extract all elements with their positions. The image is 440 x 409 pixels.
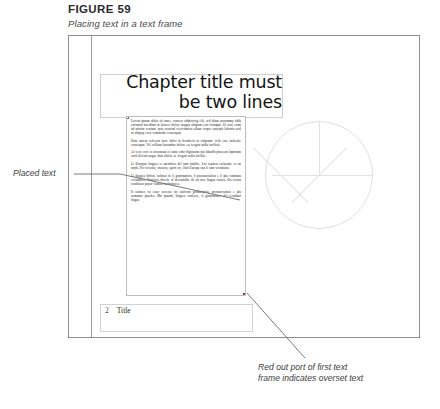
text-frame-out-port-icon[interactable] [243,293,246,296]
callout-placed-text: Placed text [13,168,56,179]
body-paragraph: Li lingues differe solmen in li grammati… [131,175,241,187]
decorative-circle-graphic [265,121,373,229]
figure-caption: Placing text in a text frame [68,18,183,29]
body-paragraph: At vero eros et accumsan et iusto odio d… [131,151,241,159]
figure-label: FIGURE 59 [68,3,131,15]
body-paragraph: Li Europan lingues es membres del sam fa… [131,163,241,171]
body-text-frame[interactable]: Lorem ipsum dolor sit amet, consect adip… [126,116,246,296]
text-frame-in-port-icon[interactable] [126,116,129,119]
circle-spoke-horizontal [272,175,372,176]
chapter-title-line-2: be two lines [102,92,282,112]
body-paragraph: Duis autem velerem irure dolor in hendre… [131,140,241,148]
chapter-title-text: Chapter title must be two lines [102,72,282,112]
figure-root: FIGURE 59 Placing text in a text frame C… [0,0,440,409]
body-paragraph: It solmen va esser necessi far uniform g… [131,191,241,203]
chapter-title-line-1: Chapter title must [126,72,282,92]
page-inner: Chapter title must be two lines Lorem ip… [69,36,419,337]
footer-page-number: 2 [105,306,109,315]
footer-text: 2Title [105,306,131,315]
page-divider [91,36,92,337]
callout-overset-text: Red out port of first text frame indicat… [258,362,363,384]
body-paragraph: Lorem ipsum dolor sit amet, consect adip… [131,120,241,136]
document-page-spread: Chapter title must be two lines Lorem ip… [68,35,420,338]
circle-spoke-vertical [319,122,320,176]
footer-running-head: Title [117,306,131,315]
